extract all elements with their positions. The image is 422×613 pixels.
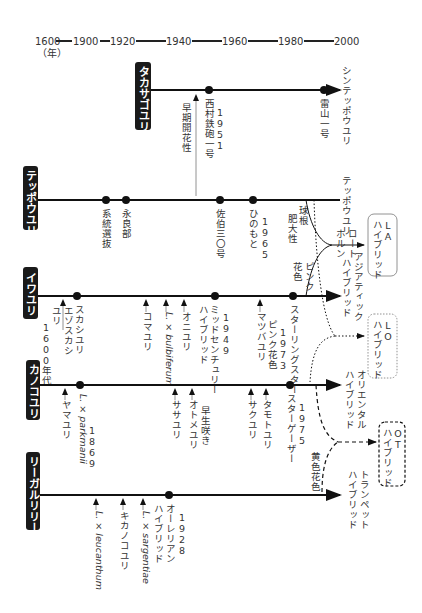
year-1920: 1920 — [110, 36, 135, 47]
dot-parkmanii — [76, 381, 84, 389]
label-hinomoto: ひのもと — [248, 209, 259, 249]
label-tamotoyuri: タモトユリ — [262, 400, 273, 450]
dot-raizan — [320, 86, 328, 94]
label-stargazer: スターゲーザー — [286, 394, 297, 464]
label-early-bloom: 早生咲き — [200, 406, 211, 446]
dot-aurelian — [165, 491, 173, 499]
label-aurelian-1: オーレリアン — [165, 504, 176, 564]
end-label-asiatic-1: アジアティック — [353, 252, 364, 322]
ot-hybrid-letters: OT — [393, 428, 404, 450]
label-pink-color: ピンク花色 — [267, 320, 278, 370]
la-hybrid-letters: LA — [383, 220, 394, 242]
lily-breeding-diagram: 1600 1900 1920 1940 1960 1980 2000 （年） タ… — [0, 0, 422, 613]
end-label-oriental-2: ハイブリッド — [344, 370, 355, 430]
label-midcentury-2: ハイブリッド — [198, 305, 209, 365]
label-erabu: 永良部 — [121, 208, 132, 239]
year-1980: 1980 — [278, 36, 303, 47]
label-komayuri: コマユリ — [142, 312, 153, 352]
dot-midcentury — [211, 292, 219, 300]
end-label-oriental-1: オリエンタル — [356, 370, 367, 430]
lo-hybrid-letters: LO — [383, 320, 394, 342]
label-branch-pink-2: 花色 — [292, 261, 303, 282]
label-yellow-color: 黄色花色 — [310, 451, 321, 492]
year-unit: （年） — [37, 47, 67, 59]
year-1900: 1900 — [73, 36, 98, 47]
label-keito: 系統選抜 — [101, 209, 112, 249]
dot-saiki — [216, 196, 224, 204]
dot-sukashi — [73, 292, 81, 300]
tag-regal-label: リーガルリリー — [27, 456, 41, 533]
tag-kanoko-label: カノコユリ — [27, 364, 41, 419]
year-1960: 1960 — [222, 36, 247, 47]
year-stargazer: 1975 — [297, 402, 308, 446]
end-label-trumpet-1: トランペット — [359, 470, 370, 530]
dot-erabu — [122, 196, 130, 204]
line-iwa: イワユリ エゾスカシ ユリ 1600年代 スカシユリ コマユリ L. × bul… — [23, 252, 364, 395]
year-aurelian: 1928 — [177, 512, 188, 556]
end-label-trumpet-2: ハイブリッド — [347, 470, 358, 530]
label-ezosukashi-2: ユリ — [51, 306, 62, 326]
label-raizan: 雷山一号 — [319, 99, 330, 139]
lo-hybrid-label: ハイブリッド — [372, 320, 383, 380]
label-otomeyuri: オトメユリ — [188, 400, 199, 450]
line-teppo: テッポウユリ 系統選抜 永良部 佐伯三〇号 ひのもと 1965 テッポウユリ 球… — [23, 166, 352, 260]
label-bulb-enlargement-1: 球根 — [298, 205, 309, 226]
label-matsubayuri: マツバユリ — [256, 312, 267, 362]
label-ezosukashi-1: エゾスカシ — [63, 306, 74, 356]
dot-sterling-star — [289, 292, 297, 300]
label-midcentury-1: ミッドセンチュリー — [209, 305, 220, 395]
dot-stargazer — [286, 381, 294, 389]
label-sargentiae: L. × sargentiae — [141, 511, 152, 584]
la-hybrid-label: ハイブリッド — [372, 220, 383, 280]
label-sakuyuri: サクユリ — [247, 400, 258, 440]
label-bulbiferum: L. × bulbiferum — [164, 312, 175, 386]
year-parkmanii: 1869 — [87, 425, 98, 469]
label-nishimura: 西村鉄砲一号 — [204, 99, 215, 159]
timeline-axis: 1600 1900 1920 1940 1960 1980 2000 （年） — [35, 36, 359, 59]
label-lorthorn-2: ホルン — [335, 229, 346, 259]
tag-iwa-label: イワユリ — [24, 272, 38, 316]
year-2000: 2000 — [334, 36, 359, 47]
label-early-flowering: 早期開花性 — [181, 103, 192, 153]
year-pink-color: 1973 — [278, 327, 289, 371]
dot-keito — [102, 196, 110, 204]
label-ezosukashi-year: 1600年代 — [41, 322, 52, 386]
label-yamayuri: ヤマユリ — [61, 400, 72, 440]
tag-teppo-label: テッポウユリ — [24, 170, 38, 236]
label-branch-pink-1: ピンク — [304, 262, 315, 292]
dot-nishimura — [205, 86, 213, 94]
year-midcentury: 1949 — [221, 312, 232, 356]
label-leucanthum: L. × leucanthum — [94, 511, 105, 590]
tag-takasago-label: タカサゴユリ — [137, 66, 151, 132]
label-kikanokoyuri: キカノコユリ — [119, 511, 130, 571]
dot-hinomoto — [249, 196, 257, 204]
label-aurelian-2: ハイブリッド — [153, 504, 164, 564]
label-saiki: 佐伯三〇号 — [215, 208, 226, 259]
end-label-asiatic-2: ハイブリッド — [341, 258, 352, 318]
label-bulb-enlargement-2: 肥大性 — [287, 214, 298, 244]
year-1940: 1940 — [166, 36, 191, 47]
label-sasayuri: ササユリ — [171, 400, 182, 440]
end-label-teppo: テッポウユリ — [341, 176, 352, 236]
year-hinomoto: 1965 — [260, 216, 271, 260]
ot-hybrid-label: ハイブリッド — [382, 428, 393, 488]
line-takasago: タカサゴユリ 早期開花性 西村鉄砲一号 1951 雷山一号 シンテッポウユリ — [135, 62, 352, 196]
end-label-shinteppo: シンテッポウユリ — [341, 66, 352, 146]
year-nishimura: 1951 — [215, 107, 226, 151]
label-sukashi: スカシユリ — [74, 305, 85, 355]
label-oniyuri: オニユリ — [181, 312, 192, 352]
